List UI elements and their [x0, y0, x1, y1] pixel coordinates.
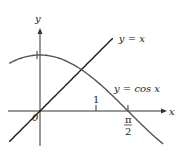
series-curve-y-equals-cos-x: [9, 55, 163, 144]
x-axis-label: x: [169, 106, 175, 117]
x-axis-arrow-icon: [161, 109, 167, 114]
y-axis-label: y: [34, 13, 41, 24]
annotation-y-equals-x: y = x: [118, 33, 145, 44]
x-tick-label-pi-numerator: π: [125, 114, 132, 125]
annotation-y-equals-cos-x: y = cos x: [113, 83, 160, 94]
series-line-y-equals-x: [9, 38, 113, 142]
chart: x y 0 1 π 2 y = x y = cos x: [0, 0, 180, 153]
x-tick-label-pi-denominator: 2: [125, 126, 131, 137]
x-tick-label-1: 1: [93, 94, 99, 105]
y-axis-arrow-icon: [38, 28, 43, 34]
